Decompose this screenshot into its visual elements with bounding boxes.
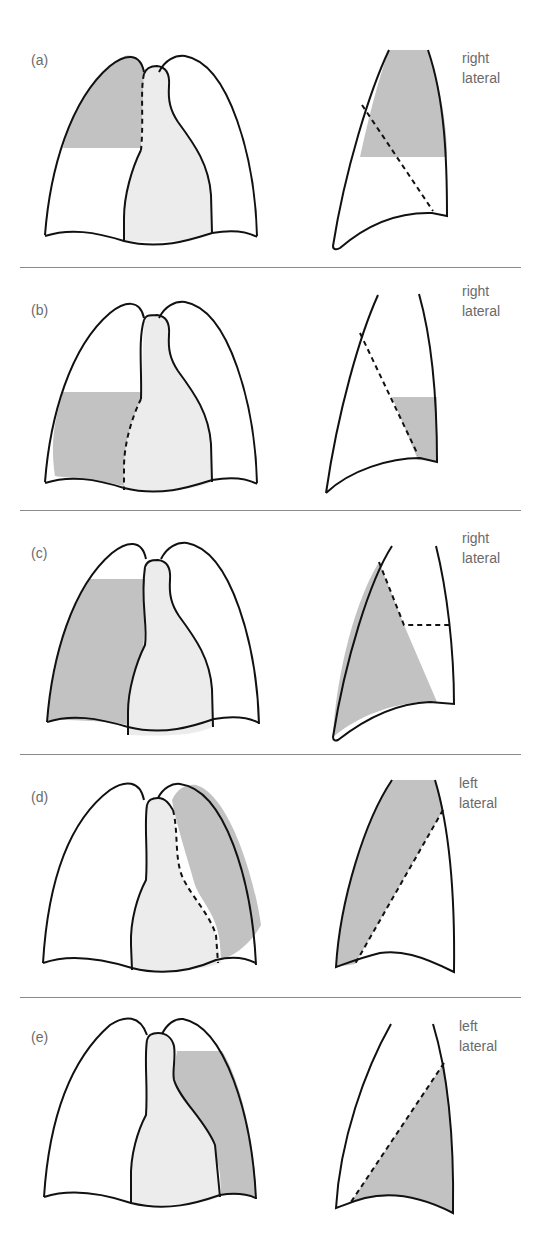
lateral-view (0, 0, 549, 1256)
lung-collapse-figure: (a) right lateral (b) right late (0, 0, 549, 1256)
